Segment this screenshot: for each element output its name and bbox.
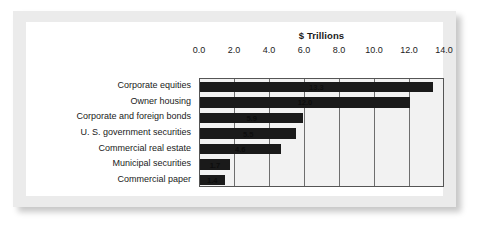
x-axis-tick-labels: 0.02.04.06.08.010.012.014.0 [199,45,444,58]
gridline [339,79,340,186]
category-label: Municipal securities [112,158,191,169]
figure-mount: $ Trillions 0.02.04.06.08.010.012.014.0 … [13,11,456,207]
x-tick-label: 6.0 [298,45,311,55]
x-tick-label: 8.0 [333,45,346,55]
bar-value-label: 5.5 [243,129,253,138]
bar-value-label: 12.0 [298,98,313,107]
chart-figure: $ Trillions 0.02.04.06.08.010.012.014.0 … [26,22,443,196]
category-label: U. S. government securities [80,127,191,138]
x-tick-label: 12.0 [400,45,418,55]
bar-value-label: 4.6 [235,145,245,154]
category-label: Commercial paper [117,174,191,185]
screenshot-root: $ Trillions 0.02.04.06.08.010.012.014.0 … [0,0,480,225]
chart-title: $ Trillions [199,30,444,41]
bar-value-label: 5.9 [246,113,256,122]
y-axis-category-labels: Corporate equitiesOwner housingCorporate… [26,78,195,187]
category-label: Owner housing [130,96,191,107]
gridline [409,79,410,186]
x-tick-label: 14.0 [435,45,453,55]
x-tick-label: 2.0 [228,45,241,55]
bar-value-label: 1.7 [210,160,220,169]
gridline [304,79,305,186]
x-tick-label: 10.0 [365,45,383,55]
bar-value-label: 1.4 [207,176,217,185]
bar-value-label: 13.3 [309,82,324,91]
category-label: Corporate equities [117,80,191,91]
x-tick-label: 0.0 [193,45,206,55]
x-tick-label: 4.0 [263,45,276,55]
plot-area: 13.312.05.95.54.61.71.4 [199,78,444,187]
category-label: Commercial real estate [98,143,191,154]
gridline [374,79,375,186]
category-label: Corporate and foreign bonds [76,111,191,122]
